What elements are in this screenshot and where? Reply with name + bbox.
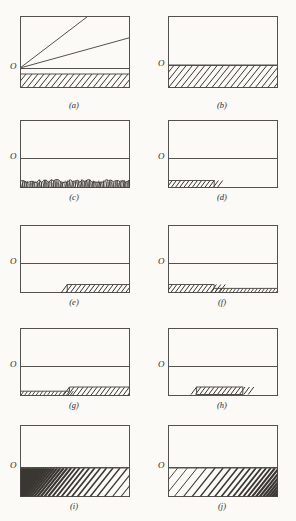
panel-row: O(a)O(b) (0, 0, 296, 106)
origin-label-c: O (10, 152, 17, 161)
panel-b: O(b) (148, 0, 296, 106)
panel-artwork-b (148, 8, 296, 114)
panel-caption-b: (b) (148, 100, 296, 110)
panel-caption-f: (f) (148, 297, 296, 307)
panel-caption-a: (a) (0, 100, 148, 110)
origin-label-f: O (158, 257, 165, 266)
panel-row: O(e)O(f) (0, 215, 296, 319)
origin-label-a: O (10, 62, 17, 71)
origin-label-e: O (10, 257, 17, 266)
panel-row: O(g)O(h) (0, 318, 296, 422)
panel-i: O(i) (0, 415, 148, 521)
panel-a: O(a) (0, 0, 148, 106)
panel-artwork-a (0, 8, 148, 114)
panel-caption-g: (g) (0, 400, 148, 410)
panel-c: O(c) (0, 110, 148, 214)
panel-h: O(h) (148, 318, 296, 422)
panel-caption-h: (h) (148, 400, 296, 410)
panel-caption-c: (c) (0, 192, 148, 202)
panel-j: O(j) (148, 415, 296, 521)
panel-g: O(g) (0, 318, 148, 422)
origin-label-b: O (158, 59, 165, 68)
origin-label-g: O (10, 360, 17, 369)
origin-label-d: O (158, 152, 165, 161)
panel-caption-d: (d) (148, 192, 296, 202)
origin-label-i: O (10, 461, 17, 470)
panel-caption-i: (i) (0, 501, 148, 511)
panel-e: O(e) (0, 215, 148, 319)
figure-plate: O(a)O(b)O(c)O(d)O(e)O(f)O(g)O(h)O(i)O(j) (0, 0, 296, 521)
panel-caption-e: (e) (0, 297, 148, 307)
origin-label-h: O (158, 360, 165, 369)
panel-row: O(i)O(j) (0, 415, 296, 521)
origin-label-j: O (158, 461, 165, 470)
panel-d: O(d) (148, 110, 296, 214)
panel-row: O(c)O(d) (0, 110, 296, 214)
panel-caption-j: (j) (148, 501, 296, 511)
panel-f: O(f) (148, 215, 296, 319)
